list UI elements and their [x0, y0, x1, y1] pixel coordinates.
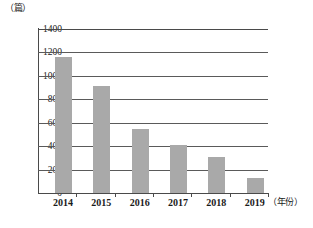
x-tick-label: 2016	[120, 197, 160, 208]
bar-chart: （篇） （年份） 1400 1200 1000 800 600 400 200 …	[0, 0, 313, 228]
plot-area	[38, 29, 268, 193]
gridline	[38, 76, 268, 77]
x-tick-label: 2018	[196, 197, 236, 208]
x-tick-label: 2014	[43, 197, 83, 208]
gridline	[38, 146, 268, 147]
bar-2018	[208, 157, 225, 193]
bar-2014	[55, 57, 72, 193]
x-tick-label: 2017	[158, 197, 198, 208]
y-axis-unit-label: （篇）	[5, 3, 31, 14]
bar-2017	[170, 145, 187, 193]
gridline	[38, 99, 268, 100]
x-tick-label: 2015	[81, 197, 121, 208]
gridline	[38, 123, 268, 124]
bar-2015	[93, 86, 110, 193]
gridline	[38, 170, 268, 171]
bar-2019	[247, 178, 264, 193]
gridline	[38, 29, 268, 30]
x-tick-label: 2019	[235, 197, 275, 208]
bar-2016	[132, 129, 149, 193]
gridline	[38, 52, 268, 53]
